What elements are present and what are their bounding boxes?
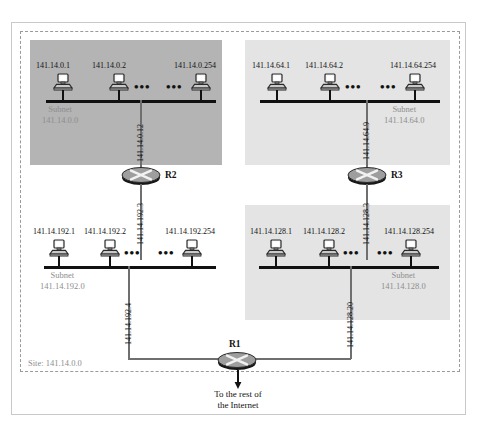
r1-right-horizontal-line [250,358,351,360]
site-label: Site: 141.14.0.0 [28,358,82,368]
host-ellipsis: ••• [158,246,175,259]
host-ip-label: 141.14.64.1 [252,61,290,70]
router-r3-icon[interactable] [346,166,388,186]
subnet-caption-line2: 141.14.192.0 [40,281,85,292]
subnet-caption-line1: Subnet [384,104,424,115]
router-r1-label: R1 [229,339,241,349]
interface-label: 141.14.128.20 [346,302,355,348]
host-drop-line [191,256,193,266]
host-ellipsis: ••• [124,246,141,259]
host-ip-label: 141.14.128.254 [384,227,434,236]
host-drop-line [410,256,412,266]
network-diagram: 141.14.0.1 141.14.0.2 141.14.0.254 ••• [0,0,485,432]
internet-caption-line2: the Internet [190,400,286,411]
subnet-bus-line [46,100,216,103]
interface-label: 141.14.128.3 [362,203,371,245]
host-ip-label: 141.14.192.2 [84,227,126,236]
subnet-bus-line [260,100,440,103]
host-ellipsis: ••• [134,80,151,93]
internet-caption-line1: To the rest of [190,389,286,400]
host-drop-line [275,256,277,266]
internet-uplink-arrow-icon [234,370,242,390]
interface-label: 141.14.0.12 [136,124,145,162]
interface-label: 141.14.192.3 [136,203,145,245]
subnet-caption-line1: Subnet [42,104,78,115]
host-ip-label: 141.14.64.254 [390,61,436,70]
host-ip-label: 141.14.0.254 [174,61,216,70]
host-ip-label: 141.14.128.2 [303,227,345,236]
host-drop-line [276,90,278,100]
host-ellipsis: ••• [166,80,183,93]
host-drop-line [414,90,416,100]
subnet-caption: Subnet 141.14.128.0 [381,270,426,292]
subnet-caption: Subnet 141.14.64.0 [384,104,424,126]
host-drop-line [118,90,120,100]
subnet-caption: Subnet 141.14.192.0 [40,270,85,292]
host-drop-line [109,256,111,266]
host-ellipsis: ••• [345,80,362,93]
router-r2-icon[interactable] [120,166,162,186]
subnet-caption-line1: Subnet [40,270,85,281]
router-r1-icon[interactable] [216,351,258,371]
host-drop-line [329,90,331,100]
router-r2-label: R2 [165,170,177,180]
host-ellipsis: ••• [343,246,360,259]
interface-label: 141.14.64.9 [362,122,371,160]
internet-caption: To the rest of the Internet [190,389,286,411]
subnet-caption: Subnet 141.14.0.0 [42,104,78,126]
host-ip-label: 141.14.192.1 [33,227,75,236]
host-ip-label: 141.14.64.2 [305,61,343,70]
subnet-caption-line2: 141.14.128.0 [381,281,426,292]
subnet-bus-line [44,266,216,269]
host-ip-label: 141.14.0.1 [36,61,70,70]
host-drop-line [58,256,60,266]
host-ip-label: 141.14.192.254 [165,227,215,236]
subnet-bus-line [259,266,439,269]
subnet-caption-line2: 141.14.64.0 [384,115,424,126]
host-ip-label: 141.14.128.1 [250,227,292,236]
interface-label: 141.14.192.4 [124,303,133,345]
host-drop-line [62,90,64,100]
host-ellipsis: ••• [377,246,394,259]
host-ip-label: 141.14.0.2 [92,61,126,70]
subnet-caption-line2: 141.14.0.0 [42,115,78,126]
host-ellipsis: ••• [380,80,397,93]
subnet-caption-line1: Subnet [381,270,426,281]
host-drop-line [328,256,330,266]
host-drop-line [200,90,202,100]
router-r3-label: R3 [391,170,403,180]
